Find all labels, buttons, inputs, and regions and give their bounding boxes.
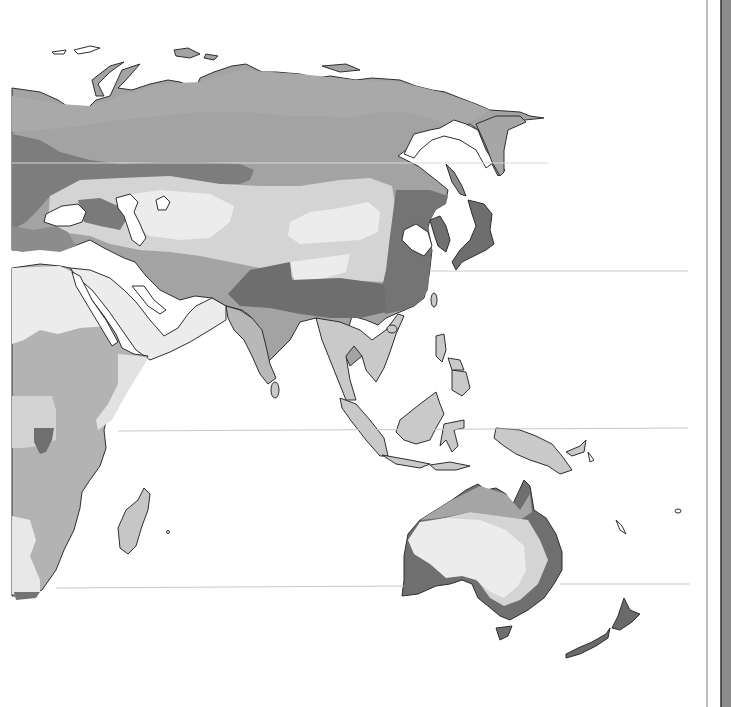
sri-lanka (271, 382, 279, 398)
hainan (387, 325, 397, 333)
mascarene (167, 531, 170, 534)
taiwan (431, 293, 437, 307)
fiji (675, 509, 681, 513)
frame-side-bar (721, 0, 731, 707)
map-canvas (0, 0, 731, 707)
climate-zone-map (0, 0, 731, 707)
